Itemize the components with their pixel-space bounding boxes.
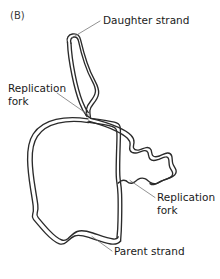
leader-line-daughter-strand — [73, 21, 101, 38]
dna-replication-diagram: (B) Daughter strand Replication fork Rep… — [0, 0, 220, 279]
parent-strand-inner-path — [32, 122, 118, 241]
panel-letter: (B) — [10, 10, 25, 21]
label-replication-fork-left-line2: fork — [8, 95, 29, 107]
replication-fork-right-junction — [118, 180, 127, 183]
figure-panel-b: (B) Daughter strand Replication fork Rep… — [0, 0, 220, 279]
label-parent-strand: Parent strand — [114, 245, 185, 257]
parent-strand-right-wall-inner — [87, 122, 118, 237]
label-replication-fork-right-line1: Replication — [157, 191, 215, 203]
label-daughter-strand: Daughter strand — [103, 14, 189, 26]
right-lobe-upper-edge-outer — [91, 118, 176, 183]
label-replication-fork-right-line2: fork — [157, 204, 178, 216]
right-lobe-upper-edge-inner — [89, 121, 173, 184]
label-replication-fork-left-line1: Replication — [8, 82, 66, 94]
parent-strand-outer-path — [28, 118, 121, 245]
